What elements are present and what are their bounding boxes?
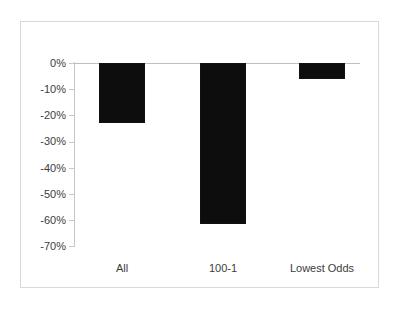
y-axis-label-2: -20% — [22, 110, 66, 121]
y-axis-label-7: -70% — [22, 241, 66, 252]
chart-screenshot: 0% -10% -20% -30% -40% -50% -60% -70% Al… — [0, 0, 402, 310]
category-label-all: All — [99, 262, 145, 275]
y-axis-label-5: -50% — [22, 189, 66, 200]
category-label-lowest-odds: Lowest Odds — [282, 262, 362, 275]
bar-all[interactable] — [99, 63, 145, 123]
y-axis-label-0: 0% — [22, 58, 66, 69]
y-axis-label-1: -10% — [22, 84, 66, 95]
y-axis-label-text: -40% — [26, 163, 66, 174]
bar-100-1[interactable] — [200, 63, 246, 224]
y-axis-label-text: -60% — [26, 215, 66, 226]
bar-lowest-odds[interactable] — [299, 63, 345, 79]
y-axis-label-text: -30% — [26, 136, 66, 147]
y-axis-label-text: 0% — [26, 58, 66, 69]
y-axis-label-text: -50% — [26, 189, 66, 200]
category-label-100-1: 100-1 — [200, 262, 246, 275]
y-axis-label-text: -10% — [26, 84, 66, 95]
y-axis-label-6: -60% — [22, 215, 66, 226]
y-axis-label-3: -30% — [22, 136, 66, 147]
value-axis-line — [74, 62, 75, 247]
y-axis-label-text: -70% — [26, 241, 66, 252]
y-axis-label-4: -40% — [22, 163, 66, 174]
y-axis-label-text: -20% — [26, 110, 66, 121]
